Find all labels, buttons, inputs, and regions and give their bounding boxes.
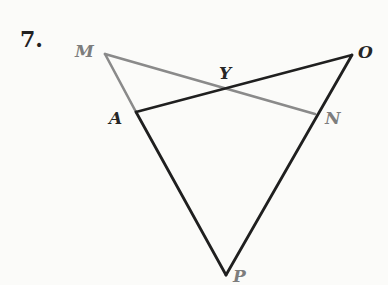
segment-AO bbox=[136, 55, 352, 112]
label-A: A bbox=[107, 108, 122, 128]
segment-MN bbox=[105, 54, 315, 114]
label-N: N bbox=[324, 108, 342, 128]
label-P: P bbox=[232, 266, 247, 285]
label-M: M bbox=[74, 41, 95, 61]
label-Y: Y bbox=[219, 63, 233, 83]
segment-AP bbox=[136, 112, 226, 275]
label-O: O bbox=[358, 42, 373, 62]
geometry-figure: M Y O A N P bbox=[0, 0, 388, 285]
segment-OP bbox=[226, 55, 352, 275]
diagram-stage: 7. M Y O A N P bbox=[0, 0, 388, 285]
